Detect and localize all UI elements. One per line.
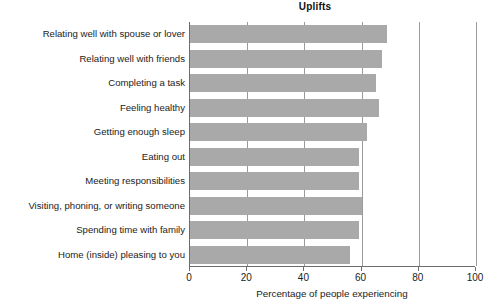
tick-label: 0 (186, 272, 192, 283)
bar (190, 25, 387, 43)
category-label: Completing a task (0, 77, 185, 88)
category-label: Meeting responsibilities (0, 175, 185, 186)
tickmark-0 (189, 267, 190, 271)
category-label: Relating well with friends (0, 53, 185, 64)
bar (190, 246, 350, 264)
category-label: Eating out (0, 151, 185, 162)
category-label: Feeling healthy (0, 102, 185, 113)
category-label: Relating well with spouse or lover (0, 28, 185, 39)
category-label: Home (inside) pleasing to you (0, 249, 185, 260)
bar-row (190, 96, 475, 121)
bar-row (190, 194, 475, 219)
bar-row (190, 120, 475, 145)
category-label: Spending time with family (0, 224, 185, 235)
bar (190, 148, 359, 166)
bar-row (190, 145, 475, 170)
tick-label: 40 (298, 272, 309, 283)
bar-row (190, 47, 475, 72)
tick-label: 20 (241, 272, 252, 283)
bar (190, 50, 382, 68)
tickmark-20 (246, 267, 247, 271)
tickmark-80 (418, 267, 419, 271)
bar-row (190, 243, 475, 268)
tick-label: 100 (467, 272, 484, 283)
category-axis-labels: Relating well with spouse or loverRelati… (0, 22, 185, 267)
category-label: Visiting, phoning, or writing someone (0, 200, 185, 211)
bar-row (190, 71, 475, 96)
plot-area (189, 22, 475, 267)
bar (190, 221, 359, 239)
bar-row (190, 169, 475, 194)
x-axis-tick-labels: 020406080100 (0, 272, 486, 286)
bar-row (190, 22, 475, 47)
gridline-100 (476, 22, 477, 266)
tick-label: 80 (412, 272, 423, 283)
tick-label: 60 (355, 272, 366, 283)
bar (190, 172, 359, 190)
chart-title: Uplifts (189, 1, 441, 12)
tickmark-100 (475, 267, 476, 271)
x-axis-title: Percentage of people experiencing (189, 288, 475, 299)
chart-page: Uplifts Relating well with spouse or lov… (0, 0, 486, 305)
tickmark-60 (361, 267, 362, 271)
bar (190, 74, 376, 92)
bar-row (190, 218, 475, 243)
bar (190, 99, 379, 117)
bar (190, 123, 367, 141)
category-label: Getting enough sleep (0, 126, 185, 137)
bars-group (190, 22, 475, 266)
bar (190, 197, 362, 215)
tickmark-40 (303, 267, 304, 271)
